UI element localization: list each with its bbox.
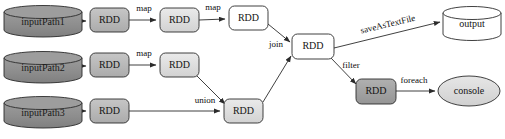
node-console[interactable]: console [438, 76, 500, 106]
node-label-output: output [459, 18, 485, 29]
node-inputpath2[interactable]: inputPath2 [4, 52, 82, 84]
edge-foreach: foreach [396, 75, 435, 91]
node-label-rdd-a3: RDD [238, 12, 259, 23]
node-rdd-a1[interactable]: RDD [90, 8, 129, 32]
edge-map-2: map [199, 2, 225, 20]
edge-label-map-3: map [136, 48, 152, 58]
edge-filter: filter [331, 58, 360, 84]
node-label-rdd-join: RDD [302, 40, 323, 51]
edge-saveastextfile: saveAsTextFile [334, 13, 440, 48]
node-label-rdd-a1: RDD [99, 14, 120, 25]
node-label-inputpath3: inputPath3 [21, 107, 64, 118]
node-rdd-b1[interactable]: RDD [90, 53, 129, 77]
edge-label-map-1: map [136, 3, 152, 13]
node-label-inputpath1: inputPath1 [21, 16, 64, 27]
edge-union: union [129, 95, 220, 111]
node-label-rdd-c1: RDD [99, 105, 120, 116]
edge-label-join: join [268, 39, 284, 49]
node-label-inputpath2: inputPath2 [21, 62, 64, 73]
node-label-rdd-b2: RDD [169, 59, 190, 70]
edge-union-to-join [263, 56, 291, 102]
node-rdd-a3[interactable]: RDD [229, 6, 268, 30]
edge-label-saveastextfile: saveAsTextFile [359, 13, 416, 36]
edge-label-filter: filter [342, 60, 360, 70]
diagram-canvas: map map map union [0, 0, 505, 139]
edge-map-1: map [129, 3, 156, 20]
node-rdd-filter[interactable]: RDD [356, 79, 396, 104]
edge-join: join [268, 24, 290, 49]
edge-label-union: union [195, 95, 216, 105]
node-label-rdd-filter: RDD [365, 85, 386, 96]
node-label-rdd-b1: RDD [99, 59, 120, 70]
rdd-lineage-diagram: map map map union [0, 0, 505, 139]
node-rdd-b2[interactable]: RDD [160, 53, 199, 77]
node-rdd-union[interactable]: RDD [224, 99, 263, 123]
node-label-rdd-union: RDD [233, 105, 254, 116]
node-rdd-c1[interactable]: RDD [90, 99, 129, 123]
node-rdd-join[interactable]: RDD [292, 34, 334, 59]
node-inputpath1[interactable]: inputPath1 [4, 6, 82, 38]
edge-label-map-2: map [205, 2, 221, 12]
node-output[interactable]: output [443, 7, 501, 41]
node-rdd-a2[interactable]: RDD [160, 8, 199, 32]
edge-label-foreach: foreach [401, 75, 428, 85]
node-inputpath3[interactable]: inputPath3 [4, 97, 82, 129]
node-label-rdd-a2: RDD [169, 14, 190, 25]
edge-map-3: map [129, 48, 156, 65]
node-label-console: console [454, 85, 485, 96]
